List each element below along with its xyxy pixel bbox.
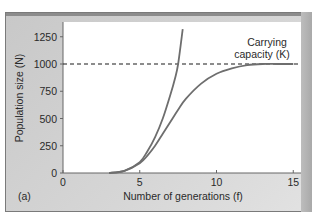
y-tick-label: 1250 xyxy=(34,31,58,43)
panel-label: (a) xyxy=(18,190,31,202)
carrying-capacity-label-line2: capacity (K) xyxy=(234,48,289,60)
x-tick-label: 15 xyxy=(287,176,299,188)
population-growth-chart: 025050075010001250 051015 Carrying capac… xyxy=(0,0,320,222)
y-tick-label: 0 xyxy=(51,167,57,179)
y-tick-label: 750 xyxy=(39,85,57,97)
y-tick-label: 500 xyxy=(39,113,57,125)
x-axis-title: Number of generations (f) xyxy=(123,190,243,202)
y-axis-title: Population size (N) xyxy=(13,54,25,143)
y-tick-label: 1000 xyxy=(34,58,58,70)
x-tick-label: 5 xyxy=(137,176,143,188)
x-tick-label: 10 xyxy=(211,176,223,188)
x-tick-label: 0 xyxy=(60,176,66,188)
y-axis-ticks: 025050075010001250 xyxy=(34,31,63,179)
carrying-capacity-label-line1: Carrying xyxy=(247,36,287,48)
y-tick-label: 250 xyxy=(39,140,57,152)
